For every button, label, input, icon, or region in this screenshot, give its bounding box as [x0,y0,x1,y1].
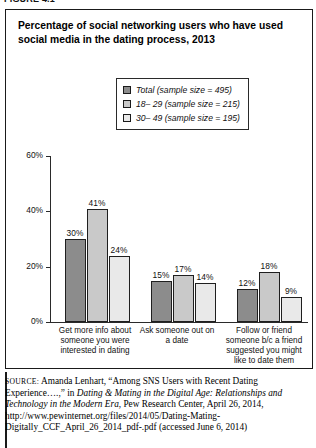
bar: 41% [87,209,108,322]
chart-legend: Total (sample size = 495)18– 29 (sample … [116,78,249,130]
y-axis-line [50,156,51,323]
y-axis-tick: 20% [46,267,50,268]
cut-off-header-text: FIGURE 4.1 [4,0,55,4]
y-axis-tick: 0% [46,322,50,323]
y-axis-tick-label: 0% [31,316,43,326]
x-axis-category-label: Ask someone out on a date [138,326,216,346]
legend-item: Total (sample size = 495) [123,83,240,97]
bar-value-label: 18% [261,261,278,271]
source-note: SOURCE: Amanda Lenhart, “Among SNS Users… [5,376,311,434]
bar-value-label: 41% [89,198,106,208]
source-label: SOURCE: [5,377,39,386]
bar-value-label: 12% [239,278,256,288]
y-axis-tick-label: 60% [26,150,43,160]
bar-value-label: 9% [285,286,297,296]
plot-area: 0%20%40%60%30%41%24%Get more info about … [50,156,308,323]
bar-value-label: 30% [67,228,84,238]
bar: 9% [281,297,302,322]
bar-value-label: 24% [111,245,128,255]
legend-item-label: 18– 29 (sample size = 215) [136,99,240,109]
bar-value-label: 17% [175,264,192,274]
figure-box: Percentage of social networking users wh… [5,9,313,369]
bar: 15% [151,281,172,323]
y-axis-tick-label: 20% [26,261,43,271]
bar: 30% [65,239,86,322]
bar-value-label: 14% [197,272,214,282]
y-axis-tick-label: 40% [26,205,43,215]
bar: 18% [259,272,280,322]
y-axis-tick: 60% [46,156,50,157]
legend-swatch-icon [123,86,131,94]
cut-off-header-strip: FIGURE 4.1 [0,0,316,8]
x-axis-line [50,322,308,323]
x-axis-category-label: Get more info about someone you were int… [56,326,134,356]
bar: 12% [237,289,258,322]
legend-swatch-icon [123,100,131,108]
y-axis-tick: 40% [46,211,50,212]
figure-page: FIGURE 4.1 Percentage of social networki… [0,0,316,448]
bar: 14% [195,283,216,322]
legend-item-label: Total (sample size = 495) [136,85,232,95]
legend-swatch-icon [123,114,131,122]
bar: 17% [173,275,194,322]
page-title: Percentage of social networking users wh… [18,19,302,47]
legend-item-label: 30– 49 (sample size = 195) [136,113,240,123]
legend-item: 18– 29 (sample size = 215) [123,97,240,111]
bar: 24% [109,256,130,322]
legend-item: 30– 49 (sample size = 195) [123,111,240,125]
x-axis-category-label: Follow or friend someone b/c a friend su… [220,326,308,366]
bar-value-label: 15% [153,270,170,280]
